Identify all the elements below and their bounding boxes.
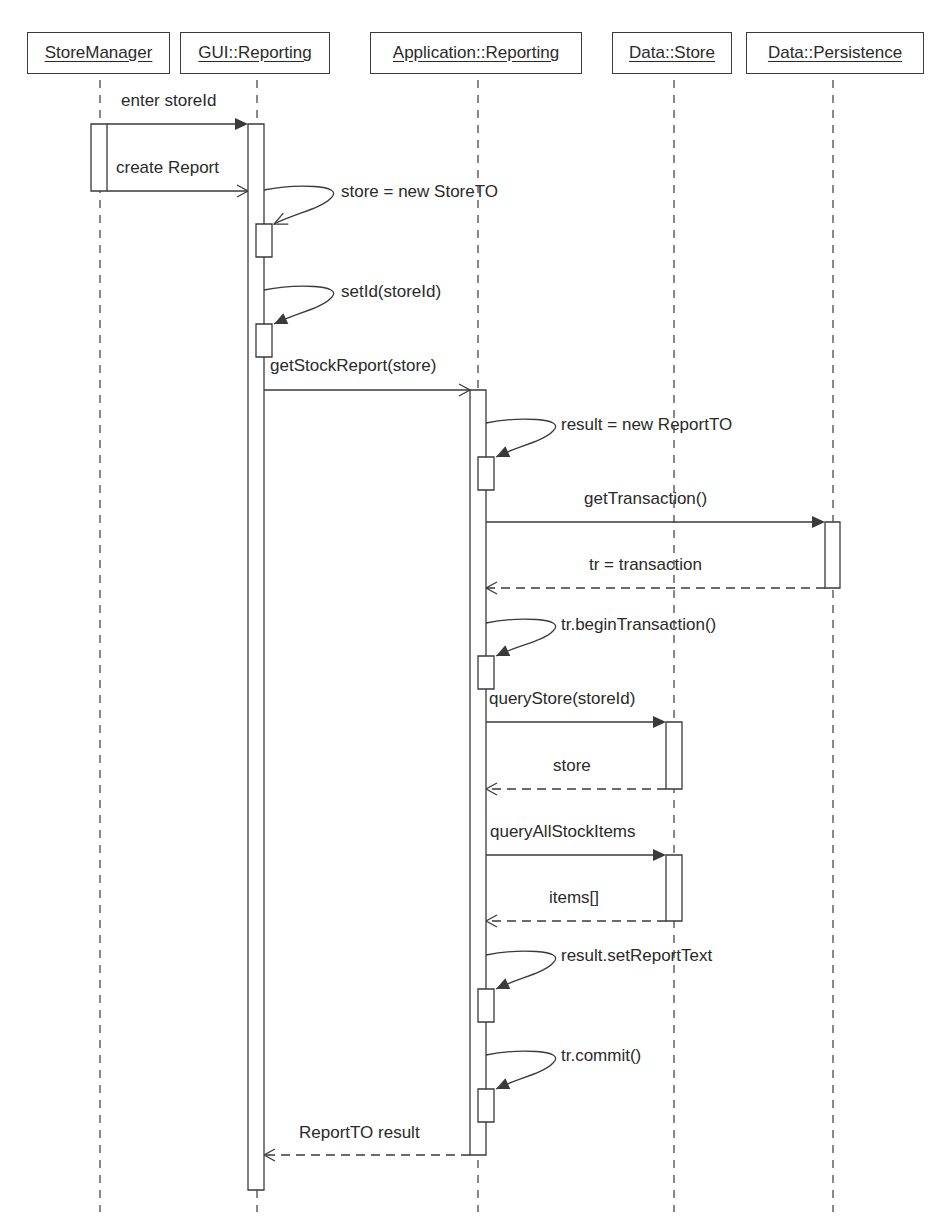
message-label-querystore: queryStore(storeId) xyxy=(489,690,635,707)
nested-activation-bar xyxy=(478,656,494,689)
lifeline-header-storemanager: StoreManager xyxy=(27,32,170,74)
sequence-diagram: StoreManager GUI::Reporting Application:… xyxy=(0,0,939,1220)
message-label-items-return: items[] xyxy=(549,889,599,906)
lifeline-dashed-lines xyxy=(100,80,833,1212)
lifeline-header-data-store: Data::Store xyxy=(612,32,732,74)
message-label-queryallstockitems: queryAllStockItems xyxy=(490,823,636,840)
nested-activation-bar xyxy=(478,457,494,490)
lifeline-header-data-persistence: Data::Persistence xyxy=(746,32,924,74)
message-label-result-new-reportto: result = new ReportTO xyxy=(561,416,732,433)
activation-bar xyxy=(470,390,486,1155)
nested-activation-bar xyxy=(256,224,272,257)
activation-bar xyxy=(91,124,107,191)
message-label-setid: setId(storeId) xyxy=(341,283,441,300)
filled-arrowhead-icon xyxy=(235,118,248,130)
lifeline-label: Application::Reporting xyxy=(393,43,559,63)
lifeline-label: Data::Persistence xyxy=(768,43,902,63)
nested-activation-bar xyxy=(256,324,272,357)
activation-bar xyxy=(666,855,682,921)
self-message-store-new-storeto xyxy=(264,186,334,224)
self-message-result-new-reportto xyxy=(486,419,556,457)
self-message-tr-begintransaction xyxy=(486,619,556,656)
message-label-tr-commit: tr.commit() xyxy=(561,1047,641,1064)
lifeline-header-gui-reporting: GUI::Reporting xyxy=(180,32,330,74)
lifeline-header-application-reporting: Application::Reporting xyxy=(370,32,582,74)
self-message-result-setreporttext xyxy=(486,951,556,989)
message-label-result-setreporttext: result.setReportText xyxy=(561,947,712,964)
message-label-tr-transaction: tr = transaction xyxy=(589,556,702,573)
lifeline-label: Data::Store xyxy=(629,43,715,63)
filled-arrowhead-icon xyxy=(653,716,666,728)
message-label-store-return: store xyxy=(553,757,591,774)
filled-arrowhead-icon xyxy=(653,849,666,861)
message-label-gettransaction: getTransaction() xyxy=(584,490,707,507)
message-label-store-new-storeto: store = new StoreTO xyxy=(341,183,498,200)
message-label-getstockreport: getStockReport(store) xyxy=(270,357,436,374)
message-label-create-report: create Report xyxy=(116,159,219,176)
message-arrows xyxy=(107,118,825,1161)
lifeline-label: StoreManager xyxy=(45,43,153,63)
message-label-enter-storeid: enter storeId xyxy=(121,92,216,109)
self-message-tr-commit xyxy=(486,1051,556,1089)
nested-activation-bar xyxy=(478,989,494,1022)
activation-bars xyxy=(91,124,840,1190)
activation-bar xyxy=(825,522,840,588)
filled-arrowhead-icon xyxy=(812,516,825,528)
message-label-tr-begintransaction: tr.beginTransaction() xyxy=(561,616,716,633)
message-label-reportto-result: ReportTO result xyxy=(299,1124,420,1141)
activation-bar xyxy=(666,722,682,789)
lifeline-label: GUI::Reporting xyxy=(198,43,311,63)
activation-bar xyxy=(248,124,264,1190)
nested-activation-bar xyxy=(478,1089,494,1122)
self-message-setid xyxy=(264,286,334,324)
